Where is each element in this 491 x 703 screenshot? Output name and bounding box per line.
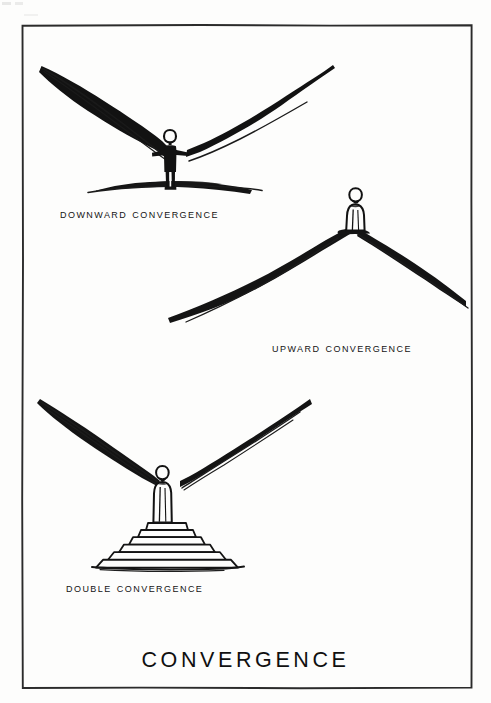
caption-downward-convergence: Downward Convergence <box>60 206 219 221</box>
plate-title: CONVERGENCE <box>0 648 491 673</box>
figure-double <box>153 466 171 523</box>
ridge-right-downward <box>186 65 335 157</box>
scan-speckles <box>2 2 38 16</box>
caption-double-convergence: Double Convergence <box>66 580 203 595</box>
ridge-right-double-crease <box>182 412 300 488</box>
ridge-right-downward-crease <box>189 102 307 161</box>
figure-upward <box>346 188 364 230</box>
ridge-right-double <box>180 399 312 487</box>
scene-double-convergence <box>37 399 312 571</box>
plate-artwork <box>0 0 491 703</box>
illustration-plate: Downward Convergence Upward Convergence … <box>0 0 491 703</box>
ridge-right-double-crease2 <box>184 420 293 490</box>
scene-downward-convergence <box>39 65 335 194</box>
caption-upward-convergence: Upward Convergence <box>272 340 412 355</box>
stepped-platform-double <box>92 523 244 571</box>
slope-left-upward <box>168 229 350 323</box>
ridge-left-double-crease2 <box>48 410 162 488</box>
